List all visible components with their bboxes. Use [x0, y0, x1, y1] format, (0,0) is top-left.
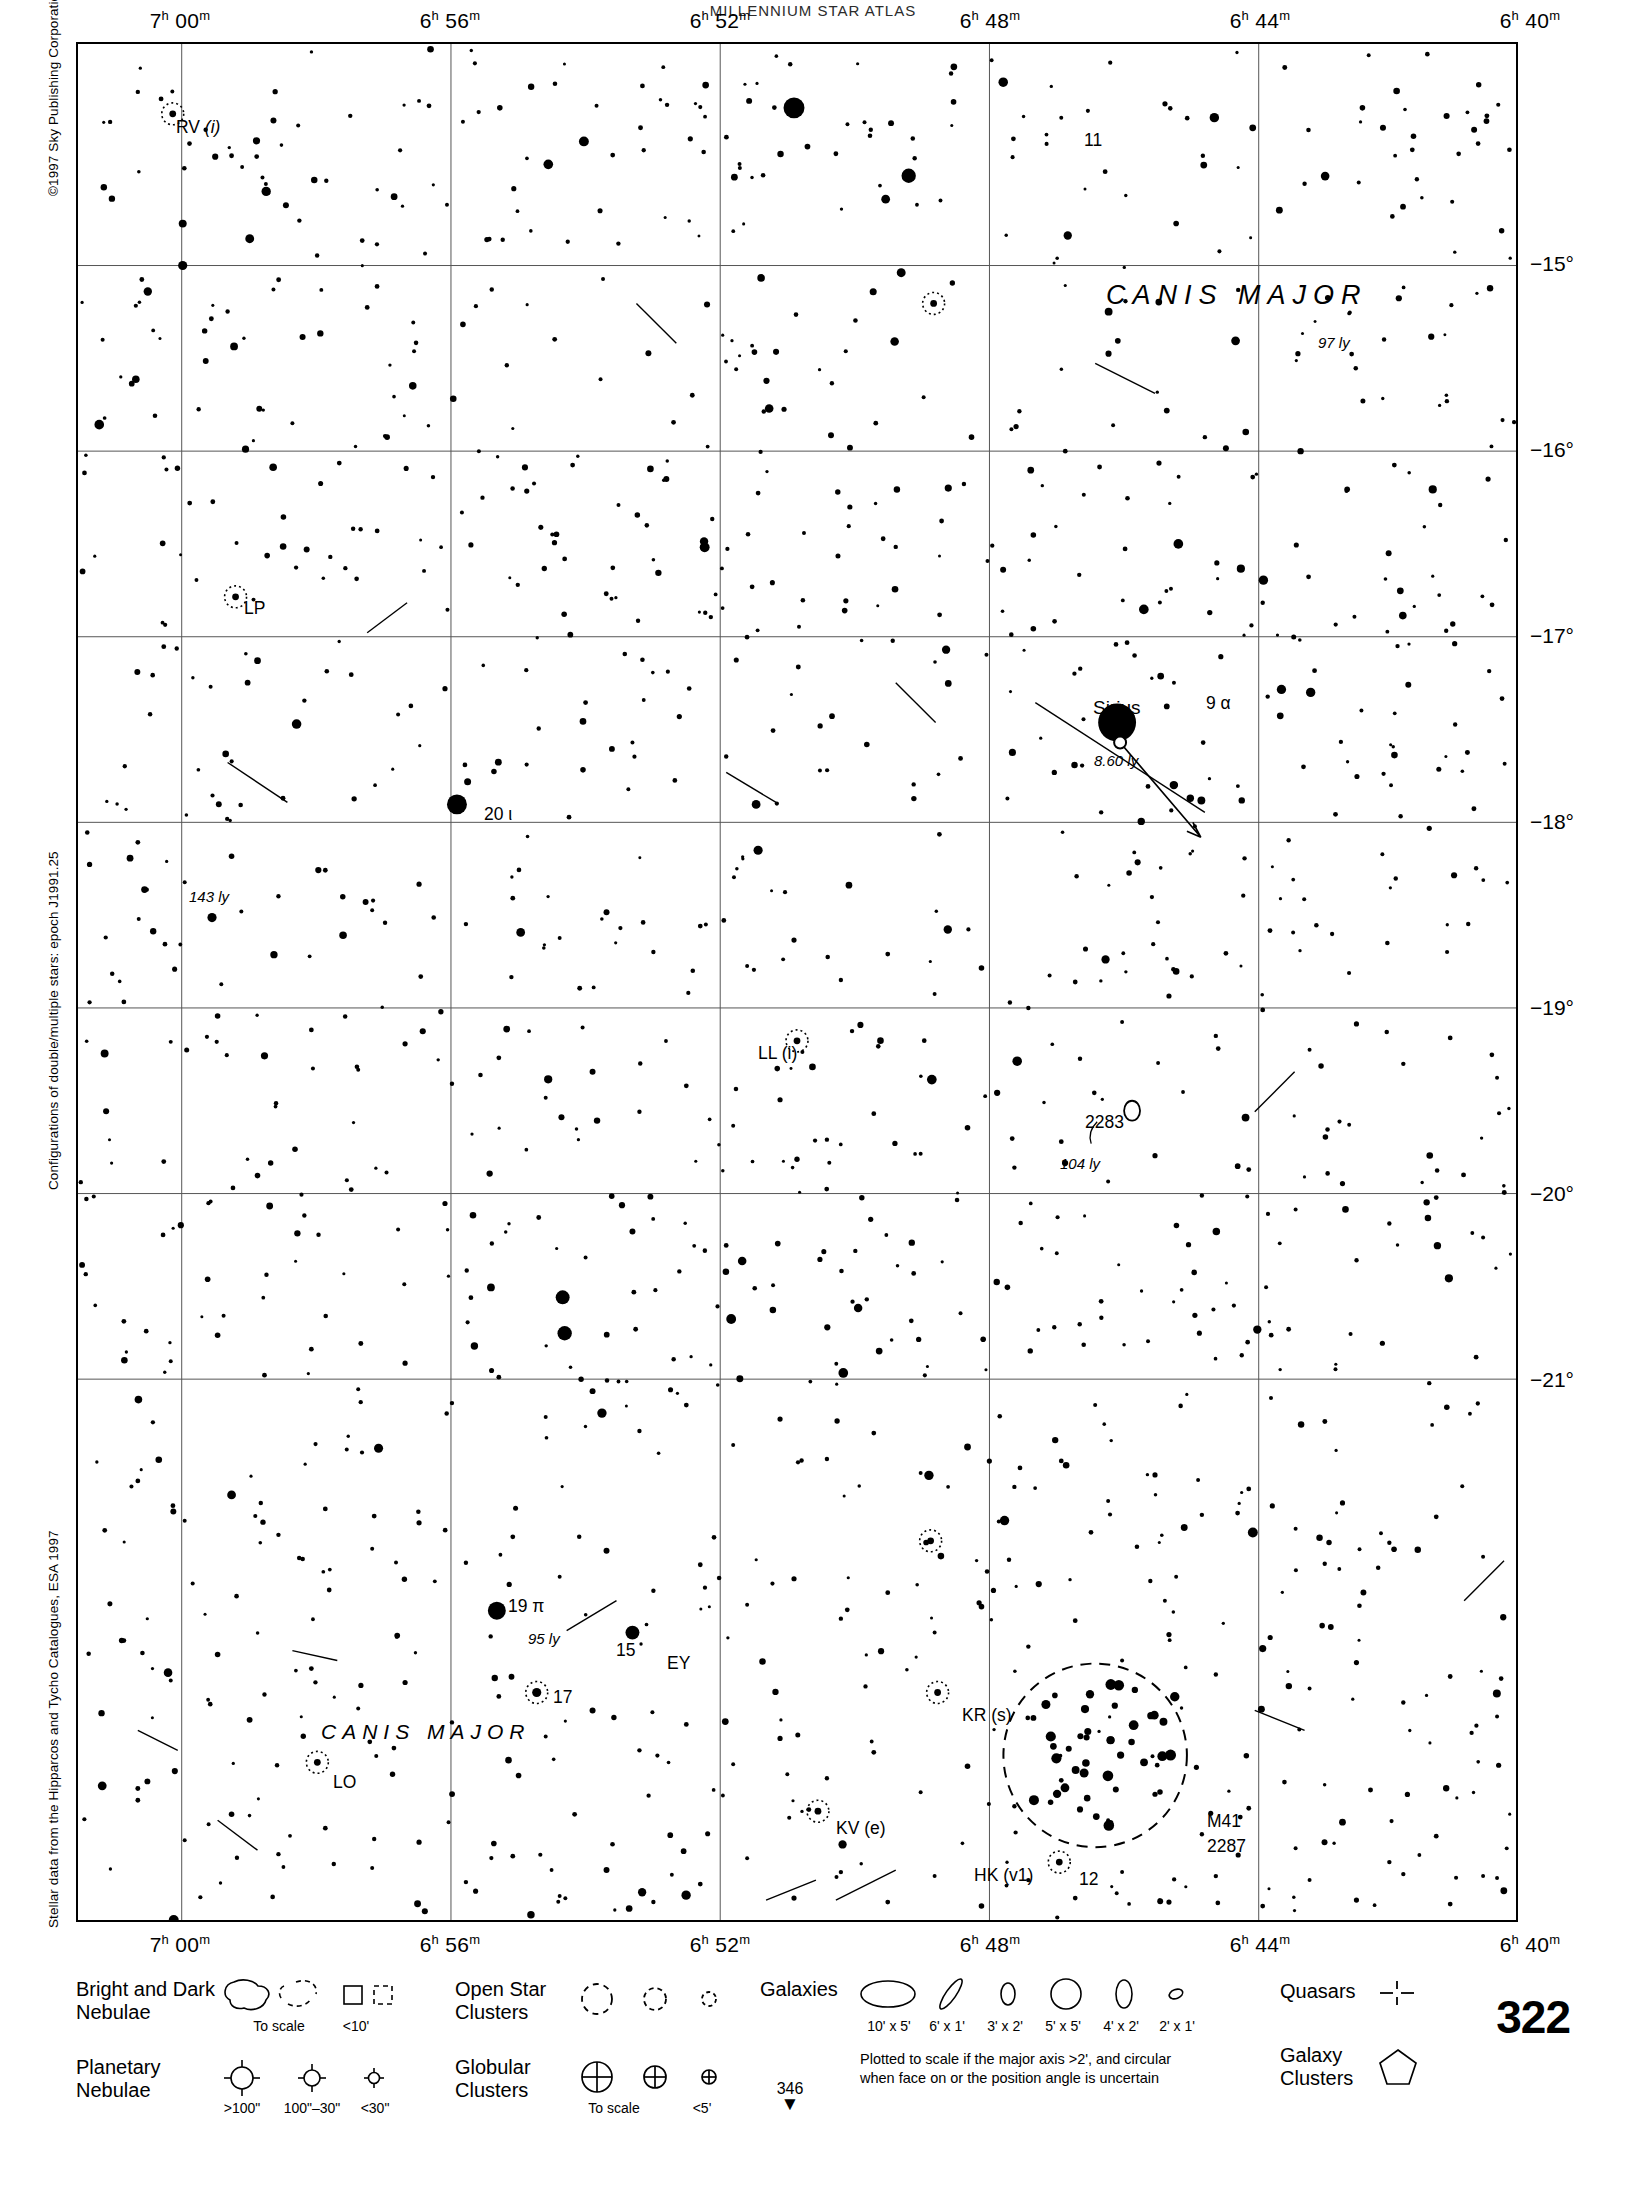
galaxy-size-caption-1: 6' x 1' [918, 2018, 976, 2034]
star-label-kr-s-: KR (s) [962, 1705, 1012, 1726]
star-label-95-ly: 95 ly [528, 1630, 560, 1647]
sirius-b-companion [1114, 737, 1126, 749]
star-label-m41: M41 [1207, 1811, 1241, 1832]
ra-tick-label-top-0: 7h 00m [150, 8, 211, 33]
proper-motion-vector-15 [766, 1880, 816, 1900]
star-label-15: 15 [616, 1640, 635, 1661]
star-label-8-60-ly: 8.60 ly [1094, 752, 1138, 769]
ra-tick-label-top-1: 6h 56m [420, 8, 481, 33]
open-cluster-symbols [573, 1976, 763, 2022]
ra-tick-label-bot-5: 6h 40m [1500, 1932, 1561, 1957]
legend-galaxies: Galaxies 10' x 5'6' x 1'3' x 2'5' x 5'4'… [760, 1978, 838, 2001]
planetary-nebula-symbols [216, 2056, 416, 2100]
star-label-104-ly: 104 ly [1060, 1155, 1100, 1172]
star-label-9-: 9 α [1206, 693, 1231, 714]
star-label-lo: LO [333, 1772, 356, 1793]
legend-quasars: Quasars [1280, 1980, 1356, 2003]
proper-motion-vector-5 [367, 603, 407, 633]
proper-motion-vector-9 [836, 1870, 896, 1900]
coordinate-grid [78, 44, 1516, 1920]
constellation-label-1: CANIS MAJOR [321, 1720, 531, 1744]
ra-tick-label-top-4: 6h 44m [1230, 8, 1291, 33]
star-label-kv-e-: KV (e) [836, 1818, 886, 1839]
star-label-sirius: Sirius [1093, 697, 1141, 719]
star-label-hk-v1-: HK (v1) [974, 1865, 1033, 1886]
legend-caption-gc-scale: To scale [573, 2100, 655, 2116]
proper-motion-vector-14 [218, 1820, 258, 1850]
legend-title: Quasars [1280, 1980, 1356, 2003]
star-label-143-ly: 143 ly [189, 888, 229, 905]
ra-tick-label-bot-1: 6h 56m [420, 1932, 481, 1957]
proper-motion-vector-11 [138, 1730, 178, 1750]
dec-tick-label-2: −17° [1530, 624, 1574, 648]
star-label-19-: 19 π [508, 1596, 544, 1617]
galaxy-2283-symbol [1124, 1101, 1140, 1121]
proper-motion-vector-1 [1095, 363, 1155, 393]
data-source-note: Stellar data from the Hipparcos and Tych… [46, 1530, 61, 1928]
proper-motion-vector-13 [1464, 1561, 1504, 1601]
constellation-label-0: CANIS MAJOR [1106, 280, 1368, 311]
ra-tick-label-bot-2: 6h 52m [690, 1932, 751, 1957]
object-overlays [138, 103, 1516, 1900]
proper-motion-vector-4 [228, 762, 288, 802]
star-label-97-ly: 97 ly [1318, 334, 1350, 351]
proper-motion-vector-12 [726, 772, 776, 802]
proper-motion-vector-8 [292, 1651, 337, 1661]
legend-globular-clusters: Globular Clusters To scale <5' [455, 2056, 531, 2102]
legend-caption-pn-large: >100" [216, 2100, 268, 2116]
star-label-2283: 2283 [1085, 1112, 1124, 1133]
star-label-rv-i-: RV (i) [176, 117, 220, 138]
legend-title: Globular Clusters [455, 2056, 531, 2102]
star-points [79, 46, 1516, 1920]
ra-tick-label-bot-3: 6h 48m [960, 1932, 1021, 1957]
legend-open-clusters: Open Star Clusters [455, 1978, 546, 2024]
legend-caption-gc-small: <5' [677, 2100, 727, 2116]
legend-caption-pn-small: <30" [350, 2100, 400, 2116]
sky-field [78, 44, 1516, 1920]
dec-tick-label-0: −15° [1530, 252, 1574, 276]
galaxy-scale-note: Plotted to scale if the major axis >2', … [860, 2050, 1171, 2088]
star-label-ll-i-: LL (i) [758, 1043, 797, 1064]
page-number: 322 [1496, 1990, 1570, 2044]
dec-tick-label-4: −19° [1530, 996, 1574, 1020]
dec-tick-label-6: −21° [1530, 1368, 1574, 1392]
star-label-11: 11 [1084, 130, 1102, 151]
star-label-17: 17 [553, 1687, 572, 1708]
star-label-12: 12 [1079, 1869, 1098, 1890]
globular-cluster-symbols [573, 2054, 763, 2100]
star-label-20-: 20 ι [484, 804, 512, 825]
galaxy-size-caption-0: 10' x 5' [860, 2018, 918, 2034]
sky-plot [78, 44, 1516, 1920]
continuation-marker: 346 ▼ [760, 2080, 820, 2110]
proper-motion-vector-2 [636, 303, 676, 343]
legend-title: Galaxy Clusters [1280, 2044, 1353, 2090]
dec-tick-label-1: −16° [1530, 438, 1574, 462]
galaxy-cluster-symbol [1376, 2046, 1428, 2094]
ra-tick-label-top-5: 6h 40m [1500, 8, 1561, 33]
legend-caption-pn-mid: 100"–30" [274, 2100, 350, 2116]
ra-tick-label-top-2: 6h 52m [690, 8, 751, 33]
legend-title: Planetary Nebulae [76, 2056, 161, 2102]
star-label-lp: LP [244, 598, 265, 619]
galaxy-size-caption-3: 5' x 5' [1034, 2018, 1092, 2034]
legend-galaxy-clusters: Galaxy Clusters [1280, 2044, 1353, 2090]
galaxy-size-caption-4: 4' x 2' [1092, 2018, 1150, 2034]
ra-tick-label-bot-4: 6h 44m [1230, 1932, 1291, 1957]
legend-title: Bright and Dark Nebulae [76, 1978, 215, 2024]
legend-planetary-nebulae: Planetary Nebulae >100" 100"–30" <30" [76, 2056, 161, 2102]
galaxy-symbols [858, 1974, 1208, 2016]
quasar-symbol [1376, 1978, 1422, 2008]
dec-tick-label-5: −20° [1530, 1182, 1574, 1206]
double-star-epoch-note: Configurations of double/multiple stars:… [46, 851, 61, 1190]
star-label-ey: EY [667, 1653, 690, 1674]
nebula-symbols [216, 1974, 396, 2018]
proper-motion-vector-3 [896, 683, 936, 723]
legend-bright-dark-nebulae: Bright and Dark Nebulae To scale <10' [76, 1978, 215, 2024]
proper-motion-vector-7 [567, 1601, 617, 1631]
proper-motion-vector-10 [1255, 1710, 1305, 1730]
star-label-2287: 2287 [1207, 1836, 1246, 1857]
dec-tick-label-3: −18° [1530, 810, 1574, 834]
ra-tick-label-bot-0: 7h 00m [150, 1932, 211, 1957]
ra-tick-label-top-3: 6h 48m [960, 8, 1021, 33]
proper-motion-vector-6 [1255, 1072, 1295, 1112]
